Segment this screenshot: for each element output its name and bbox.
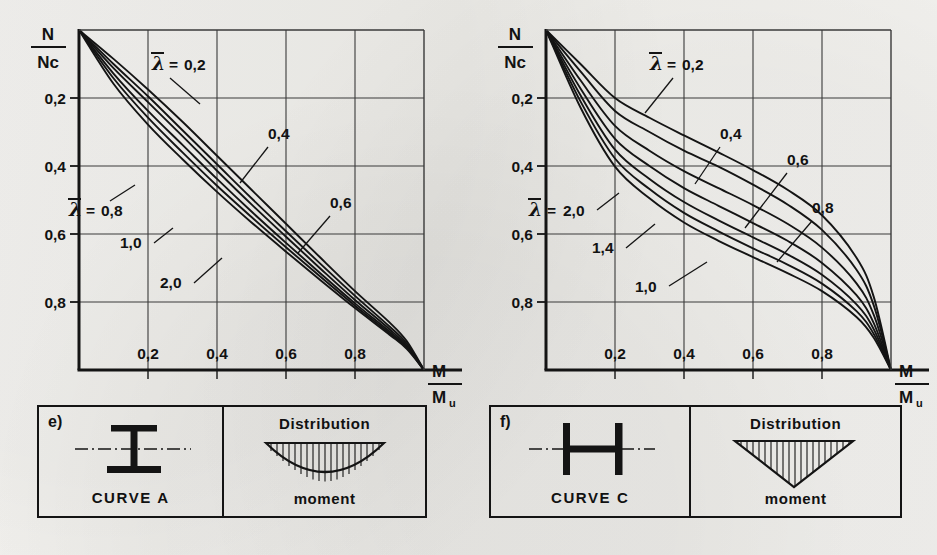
curve-label-text: 0,6 [787,151,809,168]
curve-label-0_2-left: λ = 0,2 [151,52,206,104]
curve-label-text: 0,2 [682,56,704,73]
curve-lambda-0_2 [546,30,891,370]
left-curve-caption: CURVE A [39,489,222,506]
y-axis-label-right: N Nc [498,25,533,72]
left-legend-box: e) CURVE A Distribution [37,405,427,518]
web [131,429,138,467]
y-tick-label: 0,2 [44,90,66,107]
left-grid-group [70,30,424,379]
y-tick-label: 0,6 [44,226,66,243]
x-tick-label: 0,8 [811,345,833,362]
curve-label-text: 1,4 [592,239,614,256]
curve-label-0_4-left: 0,4 [240,125,290,183]
equals-sign: = [547,202,556,219]
right-curves-group [546,30,891,370]
left-tick-labels: 0,20,40,60,80,80,60,40,2 [44,90,366,362]
curve-label-text: 1,0 [635,278,657,295]
curve-label-text: 2,0 [563,202,585,219]
leader-line [194,258,222,283]
leader-line [669,262,707,286]
leader-line [597,193,619,210]
y-axis-denominator: Nc [37,53,59,72]
right-distribution-caption: moment [691,490,900,507]
left-axis-frame [78,29,463,370]
x-axis-denominator-subscript: u [449,397,456,409]
x-tick-label: 0,4 [206,345,228,362]
lambda-bar-symbol: λ [649,52,663,74]
right-distribution-cell: Distribution [691,407,900,516]
i-beam-strong-axis-icon [39,411,225,489]
x-axis-numerator: M [432,362,446,381]
y-tick-label: 0,6 [511,226,533,243]
curve-label-1_0-right: 1,0 [635,262,707,295]
x-tick-label: 0,2 [137,345,159,362]
curve-label-text: 0,2 [184,56,206,73]
left-distribution-cell: Distribution [224,407,425,516]
curve-label-text: 0,6 [330,194,352,211]
curve-label-0_2-right: λ = 0,2 [645,52,704,113]
x-tick-label: 0,6 [742,345,764,362]
web [567,446,619,453]
curve-label-1_4-right: 1,4 [592,224,655,256]
right-flange [615,423,623,475]
hatching [741,441,849,486]
y-axis-numerator: N [509,25,521,44]
right-section-cell: f) CURVE C [491,407,691,516]
y-tick-label: 0,2 [511,90,533,107]
triangular-moment-diagram [691,437,899,491]
equals-sign: = [169,56,178,73]
x-axis-denominator: M [432,388,446,407]
curve-label-text: 0,4 [268,125,290,142]
curve-label-2_0-left: 2,0 [160,258,222,291]
left-distribution-title: Distribution [224,415,425,432]
leader-line [110,185,135,201]
y-tick-label: 0,4 [44,158,66,175]
lambda-bar-symbol: λ [151,52,165,74]
left-figure-panel: 0,20,40,60,80,80,60,40,2 N Nc M M u λ = [0,0,470,555]
y-tick-label: 0,4 [511,158,533,175]
y-axis-label-left: N Nc [31,25,66,72]
curve-label-text: 1,0 [120,234,142,251]
right-distribution-title: Distribution [691,415,900,432]
right-curve-caption: CURVE C [491,489,689,506]
curve-label-1_0-left: 1,0 [120,228,173,251]
curve-label-2_0-right: λ = 2,0 [528,193,619,220]
curve-label-0_6-right: 0,6 [745,151,809,228]
i-beam-weak-axis-icon [491,411,692,489]
x-axis-numerator: M [899,362,913,381]
parabolic-moment-diagram [224,439,427,493]
y-tick-label: 0,8 [44,294,66,311]
equals-sign: = [86,202,95,219]
lambda-bar-symbol: λ [68,198,82,220]
hatching [271,443,379,482]
curve-label-text: 0,4 [720,125,742,142]
x-tick-label: 0,2 [604,345,626,362]
lambda-bar-symbol: λ [528,198,542,220]
figure-container: 0,20,40,60,80,80,60,40,2 N Nc M M u λ = [0,0,937,555]
y-axis-numerator: N [42,25,54,44]
leader-line [154,228,173,243]
left-section-cell: e) CURVE A [39,407,224,516]
x-tick-label: 0,8 [344,345,366,362]
x-tick-label: 0,6 [275,345,297,362]
leader-line [626,224,655,248]
left-curves-group [79,30,424,370]
y-axis-denominator: Nc [504,53,526,72]
leader-line [240,147,268,183]
leader-line [170,78,200,104]
leader-line [645,78,673,113]
equals-sign: = [667,56,676,73]
curve-label-text: 2,0 [160,274,182,291]
curve-label-text: 0,8 [812,199,834,216]
bottom-flange [107,466,161,473]
right-tick-labels: 0,20,40,60,80,80,60,40,2 [511,90,833,362]
x-axis-denominator-subscript: u [916,397,923,409]
x-tick-label: 0,4 [673,345,695,362]
curve-label-text: 0,8 [101,202,123,219]
curve-label-0_6-left: 0,6 [298,194,352,253]
right-figure-panel: 0,20,40,60,80,80,60,40,2 N Nc M M u λ = … [467,0,937,555]
y-tick-label: 0,8 [511,294,533,311]
right-legend-box: f) CURVE C Distribution [489,405,902,518]
left-distribution-caption: moment [224,490,425,507]
